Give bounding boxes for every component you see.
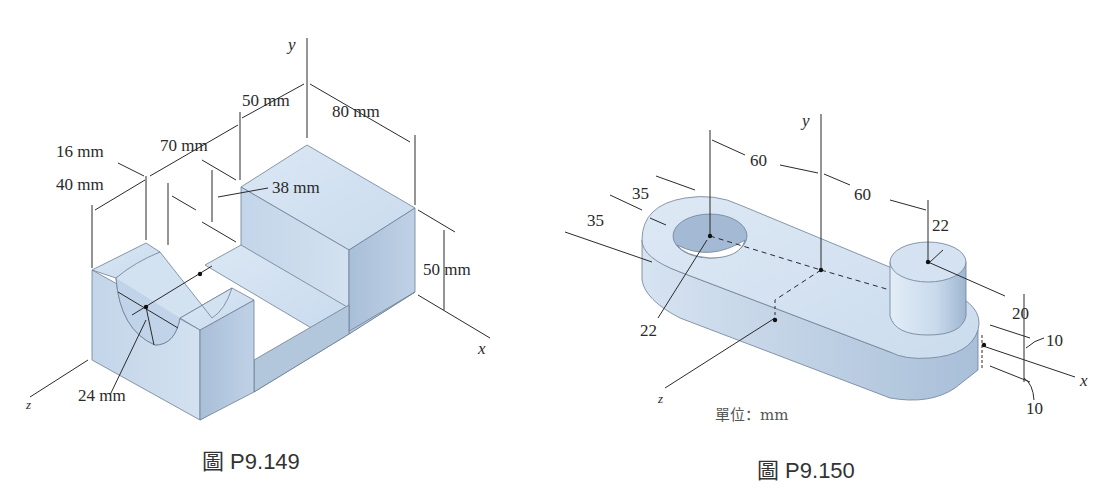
dim-24mm: 24 mm xyxy=(78,387,126,404)
dim-20: 20 xyxy=(1012,305,1029,322)
dim-60-right: 60 xyxy=(854,186,871,203)
x-axis-label: x xyxy=(478,340,486,357)
dim-50mm-top: 50 mm xyxy=(242,92,290,109)
units-note: 單位：mm xyxy=(715,408,788,423)
y-axis-label: y xyxy=(802,112,810,129)
dim-50mm-right: 50 mm xyxy=(423,261,471,278)
dim-16mm: 16 mm xyxy=(56,143,104,160)
link-drawing xyxy=(550,0,1114,496)
dim-70mm: 70 mm xyxy=(160,137,208,154)
dim-35-lower: 35 xyxy=(587,212,604,229)
dim-38mm: 38 mm xyxy=(272,179,320,196)
dim-40mm: 40 mm xyxy=(56,176,104,193)
dim-22-boss: 22 xyxy=(932,217,949,234)
figure-p9-149: y x z 50 mm 80 mm 70 mm 16 mm 40 mm 38 m… xyxy=(0,0,520,496)
dim-22-hole: 22 xyxy=(640,322,657,339)
block-drawing xyxy=(0,0,520,496)
figure-caption: 圖 P9.150 xyxy=(757,452,855,484)
x-axis-label: x xyxy=(1080,372,1088,389)
z-axis-label: z xyxy=(658,392,663,405)
z-axis-label: z xyxy=(26,398,31,411)
figure-p9-150: y x z 60 60 35 35 22 22 20 10 10 單位：mm 圖… xyxy=(550,0,1114,496)
dim-80mm: 80 mm xyxy=(332,103,380,120)
dim-35-upper: 35 xyxy=(632,185,649,202)
dim-10-lower: 10 xyxy=(1026,400,1043,417)
dim-60-left: 60 xyxy=(750,152,767,169)
dim-10-upper: 10 xyxy=(1046,332,1063,349)
y-axis-label: y xyxy=(288,36,296,53)
figure-caption: 圖 P9.149 xyxy=(202,443,300,475)
